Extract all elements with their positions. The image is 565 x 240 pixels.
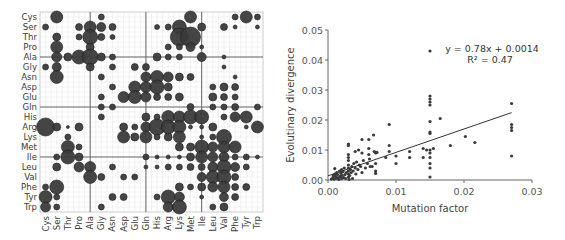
scatter-point bbox=[343, 166, 346, 169]
scatter-point bbox=[408, 156, 411, 159]
y-tick-label: 0.05 bbox=[302, 25, 323, 36]
scatter-point bbox=[364, 166, 367, 169]
regression-equation: y = 0.78x + 0.0014 bbox=[445, 43, 539, 54]
scatter-point bbox=[408, 150, 411, 153]
scatter-point bbox=[348, 174, 351, 177]
scatter-point bbox=[367, 147, 370, 150]
y-tick-label: 0.02 bbox=[302, 115, 323, 126]
scatter-chart: 0.000.010.020.030.040.050.000.010.020.03… bbox=[0, 0, 565, 240]
scatter-point bbox=[362, 159, 365, 162]
scatter-point bbox=[371, 165, 374, 168]
scatter-point bbox=[428, 166, 431, 169]
scatter-point bbox=[428, 49, 431, 52]
scatter-point bbox=[428, 156, 431, 159]
scatter-point bbox=[367, 153, 370, 156]
scatter-point bbox=[333, 167, 336, 170]
scatter-point bbox=[374, 172, 377, 175]
scatter-points bbox=[330, 49, 513, 181]
scatter-point bbox=[347, 156, 350, 159]
scatter-point bbox=[360, 138, 363, 141]
scatter-point bbox=[355, 160, 358, 163]
scatter-point bbox=[356, 168, 359, 171]
scatter-point bbox=[344, 177, 347, 180]
scatter-point bbox=[428, 94, 431, 97]
scatter-point bbox=[351, 177, 354, 180]
scatter-point bbox=[464, 135, 467, 138]
scatter-point bbox=[510, 154, 513, 157]
scatter-point bbox=[510, 102, 513, 105]
scatter-point bbox=[473, 141, 476, 144]
scatter-point bbox=[428, 97, 431, 100]
scatter-point bbox=[428, 103, 431, 106]
scatter-point bbox=[428, 120, 431, 123]
scatter-point bbox=[347, 178, 350, 181]
scatter-point bbox=[347, 153, 350, 156]
scatter-point bbox=[428, 162, 431, 165]
scatter-point bbox=[372, 133, 375, 136]
scatter-point bbox=[347, 163, 350, 166]
y-axis-title: Evolutinary divergence bbox=[285, 47, 296, 162]
y-tick-label: 0.03 bbox=[302, 85, 323, 96]
scatter-point bbox=[352, 162, 355, 165]
y-tick-label: 0.00 bbox=[302, 175, 323, 186]
scatter-point bbox=[360, 151, 363, 154]
x-tick-label: 0.02 bbox=[453, 186, 474, 197]
scatter-point bbox=[388, 150, 391, 153]
scatter-point bbox=[394, 162, 397, 165]
scatter-point bbox=[367, 138, 370, 141]
scatter-point bbox=[388, 144, 391, 147]
scatter-point bbox=[347, 142, 350, 145]
scatter-point bbox=[368, 157, 371, 160]
y-tick-label: 0.04 bbox=[302, 55, 323, 66]
scatter-point bbox=[428, 175, 431, 178]
x-tick-label: 0.01 bbox=[385, 186, 406, 197]
x-tick-label: 0.03 bbox=[521, 186, 542, 197]
scatter-point bbox=[425, 148, 428, 151]
scatter-point bbox=[428, 148, 431, 151]
x-tick-label: 0.00 bbox=[317, 186, 338, 197]
scatter-point bbox=[388, 123, 391, 126]
scatter-point bbox=[432, 147, 435, 150]
scatter-point bbox=[357, 148, 360, 151]
y-tick-label: 0.01 bbox=[302, 145, 323, 156]
scatter-point bbox=[422, 156, 425, 159]
scatter-point bbox=[360, 171, 363, 174]
scatter-point bbox=[510, 129, 513, 132]
scatter-point bbox=[375, 151, 378, 154]
scatter-point bbox=[347, 159, 350, 162]
x-axis-title: Mutation factor bbox=[392, 203, 470, 214]
scatter-point bbox=[354, 172, 357, 175]
scatter-point bbox=[394, 154, 397, 157]
scatter-point bbox=[510, 126, 513, 129]
scatter-point bbox=[449, 144, 452, 147]
scatter-point bbox=[337, 178, 340, 181]
scatter-point bbox=[354, 150, 357, 153]
scatter-point bbox=[336, 173, 339, 176]
scatter-point bbox=[439, 117, 442, 120]
scatter-point bbox=[428, 100, 431, 103]
scatter-point bbox=[352, 169, 355, 172]
scatter-point bbox=[428, 132, 431, 135]
scatter-point bbox=[374, 162, 377, 165]
r-squared-label: R² = 0.47 bbox=[467, 54, 513, 65]
scatter-point bbox=[428, 151, 431, 154]
scatter-point bbox=[422, 147, 425, 150]
scatter-point bbox=[510, 123, 513, 126]
trendline bbox=[328, 113, 512, 176]
